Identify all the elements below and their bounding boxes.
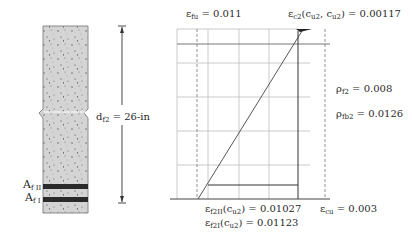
ef2I-label: εf2I(cu2) = 0.01123	[205, 218, 298, 230]
ecu-label: εcu = 0.003	[320, 204, 377, 216]
depth-label: df2 = 26-in	[96, 112, 150, 124]
reinforcement-bar-top	[43, 184, 88, 189]
reinforcement-bar-bottom	[43, 197, 88, 202]
rho-fb2-label: ρfb2 = 0.0126	[336, 109, 403, 121]
strain-profile-line	[198, 31, 302, 199]
efu-label: εfu = 0.011	[186, 9, 242, 21]
rho-f2-label: ρf2 = 0.008	[336, 84, 392, 96]
reinforcement-label-I: Af I	[25, 192, 41, 205]
concrete-column	[39, 26, 88, 213]
ec2-label: εc2(cu2, cu2) = 0.00117	[288, 9, 401, 21]
ef2II-label: εf2II(cu2) = 0.01027	[205, 204, 301, 216]
